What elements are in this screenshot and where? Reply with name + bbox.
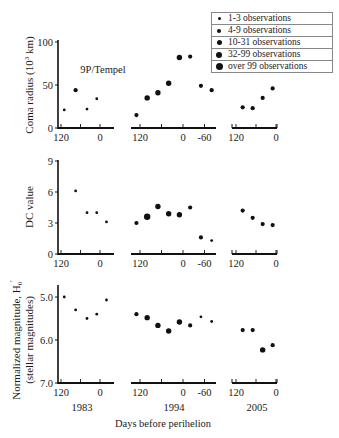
year-label-1983: 1983 [72,402,93,413]
legend-item: 10-31 observations [212,37,332,49]
x-tick-label: -60 [198,258,212,269]
x-tick-label: 120 [228,258,244,269]
marker-dot-icon [217,40,222,45]
y-tick-label: 100 [37,37,53,48]
panel-bottom: 5.06.07.012001200-601200 [40,285,279,398]
data-point [271,223,275,227]
data-point [166,81,171,86]
data-point [177,319,182,324]
legend-item: 32-99 observations [212,49,332,61]
data-point [210,320,213,323]
data-point [251,106,255,110]
data-point [261,222,265,226]
data-point [144,95,149,100]
y-tick-label: 9 [48,156,53,167]
y-axis-label-stellar-magnitudes: (stellar magnitudes) [23,296,36,384]
data-point [105,299,108,302]
legend-label: 4-9 observations [226,25,291,36]
legend-label: 10-31 observations [226,37,301,48]
data-point [210,239,213,242]
data-point [177,212,182,217]
y-tick-label: 7.0 [40,378,53,389]
data-point [241,105,245,109]
data-point [74,190,77,193]
x-tick-label: 120 [132,387,148,398]
data-point [260,347,265,352]
data-point [155,323,160,328]
x-tick-label: 0 [273,132,278,143]
x-tick-label: -60 [198,132,212,143]
data-point [155,204,160,209]
x-tick-label: 0 [97,387,102,398]
data-point [261,96,265,100]
data-point [166,211,171,216]
panel-middle: 036912001200-601200 [48,156,279,270]
x-tick-label: 120 [228,132,244,143]
x-tick-label: 0 [180,387,185,398]
year-label-2005: 2005 [247,402,268,413]
y-axis-label-coma-radius: Coma radius (103 km) [23,36,36,134]
y-tick-label: 6 [48,187,53,198]
data-point [155,90,160,95]
data-point [271,343,275,347]
marker-dot-icon [216,63,223,70]
data-point [134,221,138,225]
data-point [63,296,66,299]
x-tick-label: 0 [180,258,185,269]
x-tick-label: 120 [53,132,69,143]
marker-dot-icon [217,29,221,33]
data-point [74,309,77,312]
x-tick-label: 0 [180,132,185,143]
x-tick-label: 0 [97,132,102,143]
data-point [134,113,138,117]
y-axis-label-dc-value: DC value [23,186,35,228]
x-tick-label: 0 [273,258,278,269]
data-point [95,211,98,214]
data-point [105,221,108,224]
data-point [200,315,203,318]
x-tick-label: 120 [132,132,148,143]
legend-label: 1-3 observations [226,13,291,24]
data-point [166,328,171,333]
marker-dot-icon [218,17,221,20]
legend-label: over 99 observations [226,61,307,72]
legend-item: over 99 observations [212,61,332,72]
data-point [271,86,275,90]
x-tick-label: 0 [97,258,102,269]
x-tick-label: 120 [53,258,69,269]
y-tick-label: 3 [48,218,53,229]
data-point [188,323,192,327]
year-label-1994: 1994 [164,402,186,413]
marker-dot-icon [216,52,222,58]
data-point [251,328,255,332]
marker-size-legend: 1-3 observations 4-9 observations 10-31 … [211,12,333,73]
data-point [86,317,89,320]
data-point [144,315,149,320]
data-point [86,108,89,111]
data-point [95,313,98,316]
data-point [134,312,138,316]
data-point [74,88,78,92]
x-axis-label: Days before perihelion [115,418,212,429]
y-axis-label-normalized-magnitude: Normalized magnitude, H0' [9,280,24,400]
data-point [199,84,203,88]
x-tick-label: 120 [228,387,244,398]
x-tick-label: -60 [198,387,212,398]
data-point [241,328,245,332]
data-point [188,205,192,209]
data-point [210,88,214,92]
data-point [251,216,255,220]
y-tick-label: 5.0 [40,292,53,303]
data-point [86,211,89,214]
y-tick-label: 50 [43,80,54,91]
x-tick-label: 120 [53,387,69,398]
legend-item: 1-3 observations [212,13,332,25]
data-point [199,235,203,239]
data-point [188,55,192,59]
legend-label: 32-99 observations [226,49,301,60]
data-point [144,214,150,220]
legend-item: 4-9 observations [212,25,332,37]
data-point [241,209,245,213]
data-point [63,109,66,112]
data-point [177,55,182,60]
